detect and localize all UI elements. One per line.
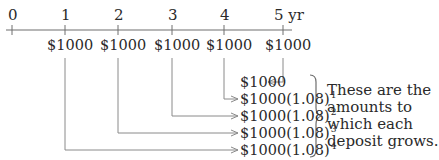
year-label-3: 3 <box>168 8 178 23</box>
result-row-1: $1000(1.08)1 <box>240 92 336 107</box>
connector-year-1 <box>65 58 238 150</box>
result-row-3: $1000(1.08)3 <box>240 126 336 141</box>
deposit-year-1: $1000 <box>47 38 93 53</box>
result-base: $1000 <box>240 74 286 90</box>
note-line: deposit grows. <box>327 133 439 150</box>
explanatory-note: These are the amounts to which each depo… <box>327 82 439 150</box>
deposit-year-5: $1000 <box>265 38 311 53</box>
result-base: $1000(1.08) <box>240 125 330 141</box>
deposit-year-3: $1000 <box>154 38 200 53</box>
year-label-5: 5 yr <box>274 8 304 23</box>
result-row-4: $1000(1.08)4 <box>240 143 336 158</box>
result-base: $1000(1.08) <box>240 108 330 124</box>
note-line: which each <box>327 116 439 133</box>
year-label-1: 1 <box>61 8 71 23</box>
connector-year-4 <box>224 58 238 99</box>
note-line: amounts to <box>327 99 439 116</box>
year-label-2: 2 <box>114 8 124 23</box>
note-line: These are the <box>327 82 439 99</box>
result-base: $1000(1.08) <box>240 142 330 158</box>
year-label-0: 0 <box>8 8 18 23</box>
connector-year-2 <box>118 58 238 133</box>
year-label-4: 4 <box>220 8 230 23</box>
result-row-2: $1000(1.08)2 <box>240 109 336 124</box>
result-base: $1000(1.08) <box>240 91 330 107</box>
deposit-year-2: $1000 <box>100 38 146 53</box>
deposit-year-4: $1000 <box>206 38 252 53</box>
result-row-0: $1000 <box>240 75 286 90</box>
connector-year-3 <box>172 58 238 116</box>
